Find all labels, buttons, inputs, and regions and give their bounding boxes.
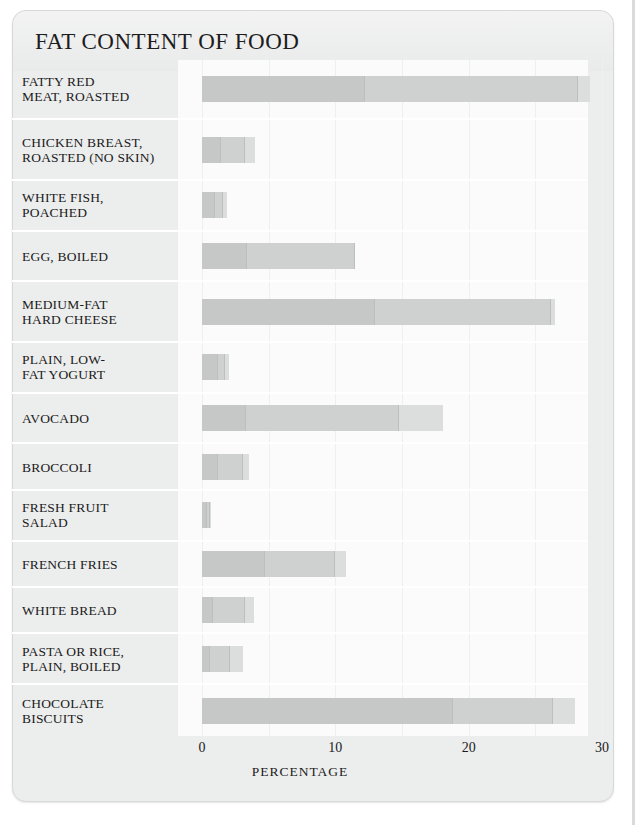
category-label-line: ROASTED (NO SKIN) [22,150,154,165]
bar-segment [202,354,218,380]
stacked-bar [202,76,590,102]
x-axis: PERCENTAGE 0102030 [12,740,588,792]
category-label-line: CHOCOLATE [22,696,104,711]
category-label-column: FATTY REDMEAT, ROASTEDCHICKEN BREAST,ROA… [12,60,178,736]
category-label: CHICKEN BREAST,ROASTED (NO SKIN) [22,135,154,165]
bar-segment [243,454,248,480]
stacked-bar [202,354,229,380]
plot-row [178,60,588,120]
category-label-row: BROCCOLI [12,444,178,490]
category-label: CHOCOLATEBISCUITS [22,696,104,726]
category-label-line: FAT YOGURT [22,367,105,382]
category-label-line: BROCCOLI [22,459,92,474]
category-label-row: CHICKEN BREAST,ROASTED (NO SKIN) [12,120,178,180]
bar-segment [202,405,246,431]
category-label: EGG, BOILED [22,249,108,264]
category-label: BROCCOLI [22,459,92,474]
category-label-line: EGG, BOILED [22,249,108,264]
category-label-line: MEAT, ROASTED [22,89,129,104]
x-axis-tick: 0 [199,740,206,756]
bar-segment [553,698,576,724]
category-label: PASTA OR RICE,PLAIN, BOILED [22,644,124,674]
bar-segment [265,551,336,577]
category-label-line: POACHED [22,205,104,220]
bar-segment [225,354,229,380]
bar-segment [210,502,211,528]
category-label-row: PASTA OR RICE,PLAIN, BOILED [12,634,178,685]
plot-row [178,491,588,542]
category-label-row: PLAIN, LOW-FAT YOGURT [12,343,178,394]
bar-segment [399,405,443,431]
gridline-30 [602,60,603,736]
stacked-bar [202,597,254,623]
bar-segment [247,243,355,269]
category-label-line: FRENCH FRIES [22,556,118,571]
bar-segment [202,551,265,577]
bar-segment [202,698,453,724]
plot-row [178,394,588,445]
stacked-bar [202,192,227,218]
category-label: FRESH FRUITSALAD [22,500,109,530]
category-label-row: EGG, BOILED [12,232,178,283]
bar-segment [202,76,365,102]
bar-segment [453,698,553,724]
category-label: AVOCADO [22,411,89,426]
bar-segment [218,454,243,480]
category-label-row: AVOCADO [12,394,178,445]
bar-segment [223,192,227,218]
bar-segment [213,597,245,623]
category-label: PLAIN, LOW-FAT YOGURT [22,352,105,382]
stacked-bar [202,299,555,325]
bar-segment [335,551,346,577]
plot-row [178,634,588,685]
plot-row [178,181,588,232]
category-label-row: FRENCH FRIES [12,542,178,588]
bar-segment [202,454,218,480]
category-label-row: FRESH FRUITSALAD [12,491,178,542]
bar-segment [375,299,551,325]
page-title: FAT CONTENT OF FOOD [35,29,299,55]
bar-segment [215,192,223,218]
x-axis-tick: 30 [595,740,609,756]
stacked-bar [202,454,249,480]
category-label-line: FATTY RED [22,74,129,89]
stacked-bar [202,405,443,431]
category-label-line: CHICKEN BREAST, [22,135,154,150]
plot-row [178,542,588,588]
category-label-line: PLAIN, LOW- [22,352,105,367]
category-label-line: PLAIN, BOILED [22,659,124,674]
plot-row [178,232,588,283]
stacked-bar [202,137,255,163]
bar-segment [210,646,230,672]
x-axis-tick: 20 [462,740,476,756]
category-label-row: WHITE FISH,POACHED [12,181,178,232]
plot-row [178,343,588,394]
category-label-line: MEDIUM-FAT [22,297,117,312]
category-label-line: HARD CHEESE [22,312,117,327]
category-label-row: FATTY REDMEAT, ROASTED [12,60,178,120]
page-root: FAT CONTENT OF FOOD FATTY REDMEAT, ROAST… [0,0,635,825]
category-label-line: FRESH FRUIT [22,500,109,515]
plot-row [178,282,588,342]
bar-segment [245,137,256,163]
category-label-row: CHOCOLATEBISCUITS [12,685,178,736]
bar-segment [218,354,225,380]
category-label-line: WHITE BREAD [22,603,117,618]
bar-segment [221,137,245,163]
bar-segment [202,243,247,269]
category-label: FATTY REDMEAT, ROASTED [22,74,129,104]
stacked-bar [202,698,575,724]
plot-row [178,685,588,736]
bar-segment [246,405,399,431]
category-label-line: PASTA OR RICE, [22,644,124,659]
bar-segment [230,646,243,672]
category-label: WHITE FISH,POACHED [22,190,104,220]
bar-segment [202,299,375,325]
bar-segment [202,646,210,672]
bar-segment [365,76,578,102]
bar-segment [202,192,215,218]
category-label: MEDIUM-FATHARD CHEESE [22,297,117,327]
plot-row [178,120,588,180]
bar-segment [202,137,221,163]
plot-row [178,588,588,634]
